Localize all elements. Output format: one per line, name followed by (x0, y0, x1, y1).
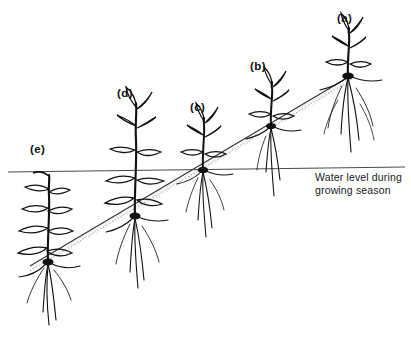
plant-e-label: (e) (30, 143, 45, 155)
plant-b-label: (b) (250, 60, 266, 72)
water-level-annotation-line1: Water level during (315, 171, 402, 183)
plant-c-label: (c) (190, 101, 205, 113)
water-level-annotation-line2: growing season (315, 184, 391, 196)
plant-a-label: (a) (337, 12, 352, 24)
plant-water-depth-figure: (e) (0, 0, 411, 339)
figure-canvas: (e) (0, 0, 411, 339)
plant-d-label: (d) (117, 87, 133, 99)
